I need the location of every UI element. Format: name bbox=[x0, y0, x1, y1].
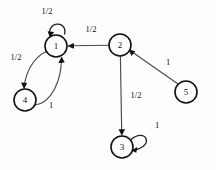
node-2-label: 2 bbox=[118, 40, 123, 50]
edge-2-to-1: 1/2 bbox=[67, 24, 109, 49]
node-2[interactable]: 2 bbox=[109, 34, 131, 56]
edge-4-to-1: 1 bbox=[35, 57, 65, 110]
edge-5-to-2-label: 1 bbox=[166, 57, 170, 67]
node-3[interactable]: 3 bbox=[111, 136, 133, 158]
edge-2-to-1-arrowhead bbox=[67, 43, 74, 49]
edge-1-to-4-path bbox=[24, 52, 46, 87]
node-5[interactable]: 5 bbox=[175, 81, 197, 103]
edge-3-to-3: 1 bbox=[131, 120, 160, 153]
edge-2-to-3-arrowhead bbox=[119, 129, 125, 136]
edge-1-to-4-arrowhead bbox=[21, 83, 27, 90]
node-1[interactable]: 1 bbox=[45, 35, 67, 57]
edge-1-to-1: 1/2 bbox=[42, 6, 65, 38]
node-1-label: 1 bbox=[54, 41, 59, 51]
state-transition-graph: 1/2 1/2 1/2 1 1/2 1 bbox=[0, 0, 216, 170]
edge-1-to-1-label: 1/2 bbox=[42, 6, 53, 16]
edge-4-to-1-arrowhead bbox=[58, 57, 64, 63]
edge-4-to-1-label: 1 bbox=[49, 100, 53, 110]
node-5-label: 5 bbox=[184, 87, 189, 97]
edge-5-to-2: 1 bbox=[129, 50, 178, 84]
node-4[interactable]: 4 bbox=[14, 89, 36, 111]
node-3-label: 3 bbox=[120, 142, 125, 152]
edge-2-to-3-label: 1/2 bbox=[131, 90, 142, 100]
edge-1-to-4-label: 1/2 bbox=[11, 52, 22, 62]
edge-1-to-4: 1/2 bbox=[11, 52, 47, 90]
edge-2-to-1-path bbox=[71, 45, 109, 46]
node-4-label: 4 bbox=[23, 95, 28, 105]
edge-3-to-3-label: 1 bbox=[155, 120, 159, 130]
diagram-canvas: 1/2 1/2 1/2 1 1/2 1 bbox=[0, 0, 216, 170]
edge-5-to-2-path bbox=[132, 52, 179, 85]
edge-2-to-3-path bbox=[120, 56, 121, 132]
edge-2-to-3: 1/2 bbox=[119, 56, 142, 136]
edge-4-to-1-path bbox=[35, 60, 62, 105]
edge-2-to-1-label: 1/2 bbox=[86, 24, 97, 34]
